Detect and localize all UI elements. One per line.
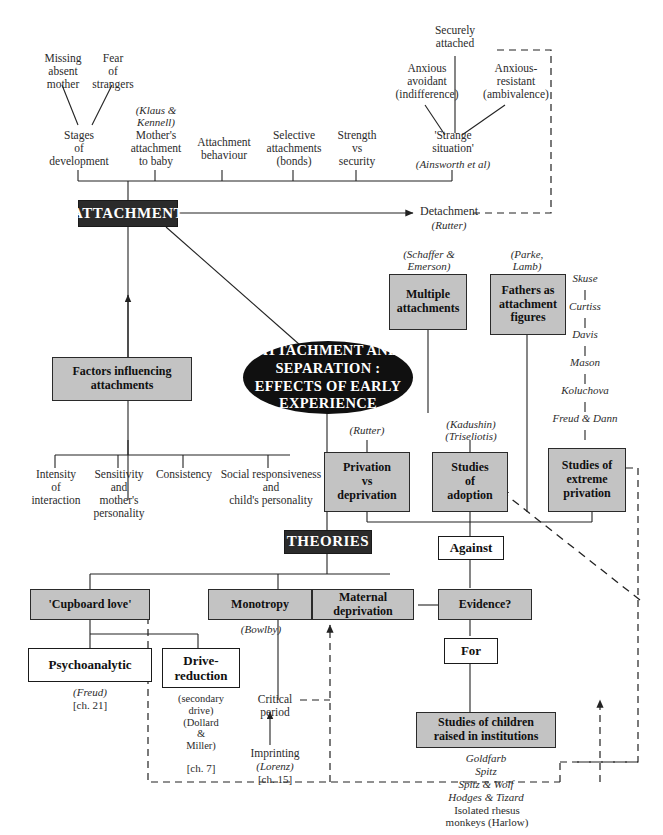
box-against[interactable]: Against <box>438 536 504 560</box>
box-privation-vs-deprivation[interactable]: Privation vs deprivation <box>324 452 410 512</box>
central-node-attachment-and-separation[interactable]: ATTACHMENT AND SEPARATION : EFFECTS OF E… <box>243 341 413 414</box>
chapter-imprinting: [ch. 15] <box>240 773 310 785</box>
factor-social-responsiveness: Social responsiveness and child's person… <box>208 468 334 507</box>
study-isolated-rhesus-monkeys: Isolated rhesus monkeys (Harlow) <box>428 804 546 829</box>
box-evidence-question[interactable]: Evidence? <box>438 589 532 620</box>
box-for[interactable]: For <box>444 638 498 664</box>
chain-item-koluchova: Koluchova <box>548 384 622 396</box>
chain-item-mason: Mason <box>552 356 618 368</box>
cite-bowlby: (Bowlby) <box>222 623 300 635</box>
study-hodges-tizard: Hodges & Tizard <box>430 791 542 803</box>
chain-item-skuse: Skuse <box>552 272 618 284</box>
cite-parke-lamb: (Parke, Lamb) <box>492 248 562 273</box>
chapter-psychoanalytic: [ch. 21] <box>40 699 140 711</box>
topic-strange-situation: 'Strange situation' <box>414 129 492 155</box>
cue-anxious-avoidant: Anxious avoidant (indifference) <box>382 62 472 101</box>
cue-securely-attached: Securely attached <box>418 24 492 50</box>
node-imprinting: Imprinting <box>240 747 310 760</box>
chapter-drive-reduction: [ch. 7] <box>160 762 242 774</box>
chain-item-davis: Davis <box>552 328 618 340</box>
cite-rutter-privation: (Rutter) <box>330 424 404 436</box>
cite-drive-reduction: (secondary drive) (Dollard & Miller) <box>160 693 242 752</box>
cue-fear-of-strangers: Fear of strangers <box>82 52 144 91</box>
study-spitz: Spitz <box>436 765 536 777</box>
box-monotropy[interactable]: Monotropy <box>208 589 312 620</box>
cite-lorenz: (Lorenz) <box>240 760 310 772</box>
chain-item-curtiss: Curtiss <box>552 300 618 312</box>
factor-sensitivity-mothers-personality: Sensitivity and mother's personality <box>83 468 155 520</box>
cite-ainsworth: (Ainsworth et al) <box>396 158 510 170</box>
study-goldfarb: Goldfarb <box>436 752 536 764</box>
cite-schaffer-emerson: (Schaffer & Emerson) <box>390 248 468 273</box>
chain-item-freud-dann: Freud & Dann <box>542 412 628 424</box>
concept-map-canvas: Missing absent mother Fear of strangers … <box>0 0 663 835</box>
cite-rutter-detachment: (Rutter) <box>411 219 487 231</box>
cite-dollard-miller: (secondary drive) (Dollard & Miller) <box>178 693 224 751</box>
cite-ainsworth-name: (Ainsworth et al) <box>416 158 491 170</box>
node-detachment: Detachment <box>411 205 487 218</box>
box-multiple-attachments[interactable]: Multiple attachments <box>389 274 467 330</box>
node-critical-period: Critical period <box>244 693 306 719</box>
topic-mothers-attachment: Mother's attachment to baby <box>118 129 194 168</box>
topic-stages-of-development: Stages of development <box>38 129 120 168</box>
factor-intensity-of-interaction: Intensity of interaction <box>20 468 92 507</box>
box-maternal-deprivation[interactable]: Maternal deprivation <box>312 589 414 620</box>
box-studies-of-adoption[interactable]: Studies of adoption <box>432 452 508 512</box>
study-rhesus-text: Isolated rhesus monkeys (Harlow) <box>446 804 529 828</box>
box-privation-label: Privation vs deprivation <box>337 461 396 503</box>
cue-anxious-resistant: Anxious- resistant (ambivalence) <box>470 62 562 101</box>
box-drive-reduction[interactable]: Drive- reduction <box>162 648 240 688</box>
cite-kadushin-triseliotis: (Kadushin) (Triseliotis) <box>430 418 512 443</box>
box-cupboard-love[interactable]: 'Cupboard love' <box>30 589 150 620</box>
heading-attachment[interactable]: ATTACHMENT <box>78 200 178 227</box>
topic-strength-vs-security: Strength vs security <box>325 129 389 168</box>
topic-attachment-behaviour: Attachment behaviour <box>186 136 262 162</box>
box-studies-of-children-institutions[interactable]: Studies of children raised in institutio… <box>416 712 556 748</box>
topic-selective-attachments: Selective attachments (bonds) <box>252 129 336 168</box>
box-factors-influencing-attachments[interactable]: Factors influencing attachments <box>52 357 192 401</box>
cite-freud: (Freud) <box>40 686 140 698</box>
cite-klaus-kennell: (Klaus & Kennell) <box>118 104 194 129</box>
study-spitz-wolf: Spitz & Wolf <box>436 778 536 790</box>
box-psychoanalytic[interactable]: Psychoanalytic <box>28 648 152 682</box>
box-studies-of-extreme-privation[interactable]: Studies of extreme privation <box>548 448 626 512</box>
heading-theories[interactable]: THEORIES <box>284 530 372 554</box>
